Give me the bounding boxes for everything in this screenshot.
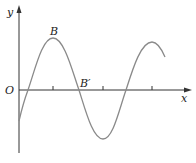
sine-graph: y x O B B′ xyxy=(0,0,196,163)
origin-label: O xyxy=(5,84,14,97)
point-b-label: B xyxy=(49,25,58,38)
point-b-prime-label: B′ xyxy=(79,77,91,90)
sine-curve xyxy=(19,38,165,139)
y-axis-label: y xyxy=(6,6,14,19)
y-axis-arrow-icon xyxy=(17,5,22,13)
x-axis-label: x xyxy=(181,92,188,105)
